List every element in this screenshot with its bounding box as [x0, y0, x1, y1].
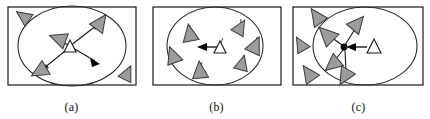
panel-c: (c) — [287, 0, 430, 119]
hub-node — [341, 44, 348, 51]
panel-b: (b) — [145, 0, 288, 119]
panel-c-diagram — [287, 0, 430, 95]
figure-container: (a) — [0, 0, 430, 119]
panel-b-diagram — [145, 0, 288, 95]
panel-a-caption: (a) — [0, 100, 143, 115]
panel-c-hub — [341, 44, 348, 51]
panel-b-caption: (b) — [145, 100, 288, 115]
panel-a: (a) — [0, 0, 143, 119]
panel-c-caption: (c) — [287, 100, 430, 115]
panel-a-diagram — [0, 0, 143, 95]
